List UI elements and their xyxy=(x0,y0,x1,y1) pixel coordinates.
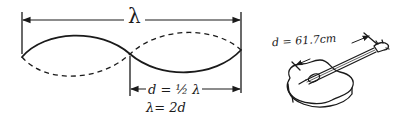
wavelength-equation: λ= 2d xyxy=(146,101,186,114)
diagram-lines xyxy=(0,0,402,127)
wavelength-label: λ xyxy=(124,6,145,26)
half-wavelength-equation: d = ½ λ xyxy=(146,83,202,96)
solid-wave xyxy=(22,36,241,73)
standing-wave-diagram: λ d = ½ λ λ= 2d d = 61.7cm xyxy=(0,0,402,127)
